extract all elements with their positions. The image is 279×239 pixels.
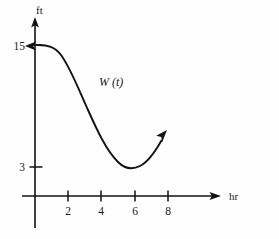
- x-tick-label-6: 6: [132, 205, 138, 217]
- y-axis-unit-label: ft: [36, 4, 43, 16]
- graph-canvas: ft hr 15 3 2 4 6 8 W (t): [0, 0, 279, 239]
- x-axis-unit-label: hr: [229, 190, 239, 202]
- w-of-t-curve: [36, 45, 162, 168]
- figure-container: ft hr 15 3 2 4 6 8 W (t): [0, 0, 279, 239]
- x-tick-label-8: 8: [165, 205, 171, 217]
- curve-name-label: W (t): [99, 75, 123, 89]
- y-tick-label-15: 15: [14, 40, 26, 52]
- x-tick-label-4: 4: [98, 205, 104, 217]
- x-tick-label-2: 2: [65, 205, 71, 217]
- y-tick-label-3: 3: [19, 161, 25, 173]
